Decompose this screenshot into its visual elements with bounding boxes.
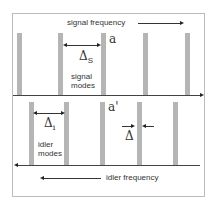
idler-spacing-left-arrowhead-icon xyxy=(33,111,37,115)
idler-spacing-symbol: Δi xyxy=(44,116,55,132)
idler-marker-a-prime: a' xyxy=(108,100,118,114)
idler-frequency-arrow-line xyxy=(44,178,101,179)
idler-modes-label: idlermodes xyxy=(38,140,62,158)
offset-left-line xyxy=(122,126,131,127)
signal-modes-label: signalmodes xyxy=(71,72,95,90)
signal-mode-bar-a xyxy=(101,33,106,95)
signal-mode-bar xyxy=(17,33,22,95)
signal-frequency-arrow-line xyxy=(138,23,180,24)
signal-spacing-line xyxy=(65,45,99,46)
signal-mode-bar xyxy=(185,33,190,95)
signal-spacing-symbol: ΔS xyxy=(79,49,93,65)
signal-spacing-right-arrowhead-icon xyxy=(97,43,101,47)
signal-marker-a: a xyxy=(109,32,116,46)
idler-spacing-right-arrowhead-icon xyxy=(61,111,65,115)
idler-mode-bar-a-prime xyxy=(100,102,105,165)
idler-spacing-line xyxy=(35,113,63,114)
offset-left-arrowhead-icon xyxy=(131,124,135,128)
signal-spacing-left-arrowhead-icon xyxy=(63,43,67,47)
idler-mode-bar xyxy=(137,102,142,165)
idler-mode-bar xyxy=(173,102,178,165)
idler-axis xyxy=(17,165,200,166)
signal-frequency-arrowhead-icon xyxy=(180,21,184,25)
signal-axis-arrowhead-icon xyxy=(200,93,204,97)
signal-frequency-label: signal frequency xyxy=(67,18,125,27)
idler-axis-arrowhead-icon xyxy=(14,163,18,167)
signal-mode-bar xyxy=(143,33,148,95)
offset-symbol: Δ xyxy=(125,129,134,143)
offset-right-line xyxy=(146,126,154,127)
signal-axis xyxy=(13,95,201,96)
idler-frequency-label: idler frequency xyxy=(106,173,158,182)
